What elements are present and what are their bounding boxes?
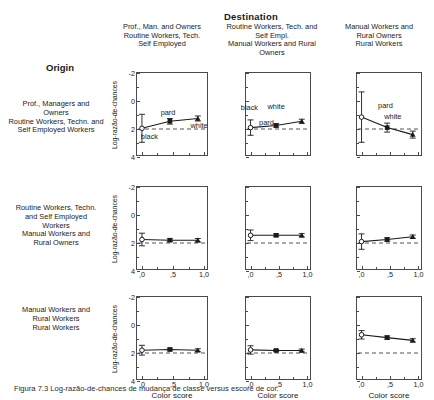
data-point-open-circle <box>248 348 253 353</box>
row-header-1: Routine Workers, Techn.and Self Employed… <box>4 204 108 248</box>
panel-r1-c1: ,0,51,0 <box>219 186 315 270</box>
data-point-open-circle <box>140 126 145 131</box>
y-axis-label-text: Log-razão-de-chances <box>111 73 118 157</box>
y-tick-label: 2 <box>131 126 135 133</box>
panel-r0-c0: 420-2Log-razão-de-chancesblackpardwhite <box>110 72 212 156</box>
y-tick-label: 2 <box>131 350 135 357</box>
plot-area: ,0,51,0 <box>245 186 311 270</box>
data-point-open-circle <box>359 333 364 338</box>
column-header-0: Prof., Man. and OwnersRoutine Workers, T… <box>112 23 212 49</box>
y-tick-label: 0 <box>131 322 135 329</box>
y-tick-label: -2 <box>129 184 135 191</box>
panel-r1-c0: 420-2,0,51,0Log-razão-de-chances <box>110 186 212 270</box>
y-tick-mark <box>137 157 140 158</box>
point-label-black: black <box>141 133 158 141</box>
x-tick-label: ,5 <box>170 271 176 279</box>
panel-r2-c0: 420-2,0,51,0Log-razão-de-chancesColor sc… <box>110 296 212 380</box>
data-overlay <box>246 187 312 271</box>
data-point-open-circle <box>248 233 253 238</box>
y-tick-mark <box>246 157 249 158</box>
y-tick-mark <box>357 157 360 158</box>
plot-area: 420-2,0,51,0Log-razão-de-chancesColor sc… <box>136 296 208 380</box>
data-point-open-circle <box>140 237 145 242</box>
origin-title: Origin <box>10 62 110 73</box>
y-axis-label: Log-razão-de-chances <box>111 297 122 381</box>
point-label-white: white <box>384 113 401 121</box>
y-axis-label: Log-razão-de-chances <box>111 187 122 271</box>
point-label-white: white <box>190 122 207 130</box>
point-label-pard: pard <box>259 119 274 127</box>
column-header-1: Routine Workers, Tech. and Self Empl.Man… <box>220 23 324 57</box>
data-point-filled-square <box>168 119 173 124</box>
header-line: Rural Workers <box>331 40 427 49</box>
data-point-open-circle <box>140 348 145 353</box>
plot-area: ,0,51,0Color score <box>356 296 422 380</box>
data-point-filled-square <box>274 233 279 238</box>
panel-r0-c1: blackpardwhite <box>219 72 315 156</box>
row-header-0: Prof., Managers andOwnersRoutine Workers… <box>4 100 108 135</box>
data-overlay <box>357 187 423 271</box>
point-label-pard: pard <box>378 102 393 110</box>
data-point-filled-square <box>274 348 279 353</box>
point-label-white: white <box>268 103 285 111</box>
point-label-pard: pard <box>161 109 176 117</box>
panel-r2-c2: ,0,51,0Color score <box>330 296 426 380</box>
data-point-filled-square <box>385 237 390 242</box>
plot-area: 420-2Log-razão-de-chancesblackpardwhite <box>136 72 208 156</box>
y-tick-label: -2 <box>129 294 135 301</box>
data-point-open-circle <box>359 239 364 244</box>
x-tick-label: ,0 <box>139 271 145 279</box>
data-point-open-circle <box>248 125 253 130</box>
y-axis-label-text: Log-razão-de-chances <box>111 187 118 271</box>
row-header-2: Manual Workers andRural WorkersRural Wor… <box>4 306 108 332</box>
data-overlay <box>246 297 312 381</box>
panel-r2-c1: ,0,51,0Color score <box>219 296 315 380</box>
plot-area: pardwhite <box>356 72 422 156</box>
data-point-open-circle <box>359 115 364 120</box>
header-line: Routine Workers, Tech. and Self Empl. <box>220 23 324 40</box>
data-point-filled-square <box>385 335 390 340</box>
plot-area: ,0,51,0Color score <box>245 296 311 380</box>
y-tick-label: -2 <box>129 70 135 77</box>
point-label-black: black <box>241 104 258 112</box>
header-line: Rural Workers <box>4 324 108 333</box>
y-tick-label: 4 <box>131 268 135 275</box>
destination-title-text: Destination <box>224 11 278 22</box>
x-tick-label: ,0 <box>359 271 365 279</box>
panel-r1-c2: ,0,51,0 <box>330 186 426 270</box>
data-overlay <box>246 73 312 157</box>
x-tick-label: 1,0 <box>302 271 312 279</box>
header-line: Manual Workers and Rural Owners <box>220 40 324 57</box>
y-tick-label: 4 <box>131 154 135 161</box>
y-tick-label: 2 <box>131 240 135 247</box>
panel-r0-c2: pardwhite <box>330 72 426 156</box>
destination-title: Destination <box>0 11 434 22</box>
data-overlay <box>357 297 423 381</box>
x-tick-label: 1,0 <box>199 271 209 279</box>
data-overlay <box>137 297 209 381</box>
x-tick-label: ,5 <box>276 271 282 279</box>
plot-area: ,0,51,0 <box>356 186 422 270</box>
y-axis-label: Log-razão-de-chances <box>111 73 122 157</box>
figure-caption: Figura 7.3 Log-razão-de-chances de mudan… <box>14 384 424 394</box>
column-header-2: Manual Workers andRural OwnersRural Work… <box>331 23 427 49</box>
data-point-filled-square <box>168 238 173 243</box>
header-line: Self Employed <box>112 40 212 49</box>
header-line: Rural Owners <box>4 239 108 248</box>
x-tick-label: ,5 <box>387 271 393 279</box>
plot-area: 420-2,0,51,0Log-razão-de-chances <box>136 186 208 270</box>
y-tick-label: 0 <box>131 212 135 219</box>
x-tick-label: 1,0 <box>413 271 423 279</box>
data-overlay <box>137 187 209 271</box>
data-point-filled-square <box>274 123 279 128</box>
data-point-filled-square <box>385 125 390 130</box>
y-tick-label: 0 <box>131 98 135 105</box>
header-line: Self Employed Workers <box>4 126 108 135</box>
plot-area: blackpardwhite <box>245 72 311 156</box>
y-axis-label-text: Log-razão-de-chances <box>111 297 118 381</box>
x-tick-label: ,0 <box>248 271 254 279</box>
data-point-filled-square <box>168 347 173 352</box>
